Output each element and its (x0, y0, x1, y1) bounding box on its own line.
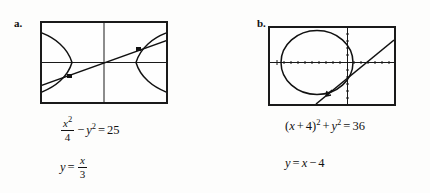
graph-b-intersection-arrow (326, 90, 332, 96)
problem-b-label: b. (257, 18, 266, 29)
problem-b-equation-2: y=x−4 (285, 157, 325, 170)
fraction-x-over-3: x 3 (78, 155, 88, 181)
fraction-numerator: x (78, 155, 88, 169)
graph-a-intersection-dot-left (67, 74, 72, 78)
problem-a-graph (40, 21, 168, 104)
right-hand-side: 25 (107, 123, 120, 137)
plus-operator: + (320, 119, 331, 133)
graph-a-svg (42, 23, 166, 102)
variable-x: x (289, 119, 295, 133)
problem-b: b. (215, 0, 430, 193)
problem-a-equation-1: x2 4 −y2=25 (60, 118, 120, 144)
plus-operator: + (295, 119, 306, 133)
problem-a: a. x2 4 −y2=25 (0, 0, 215, 193)
problem-b-graph (268, 26, 396, 106)
problem-b-equation-1: (x+4)2+y2=36 (285, 120, 365, 133)
fraction-denominator: 3 (78, 168, 88, 181)
equals-sign: = (291, 156, 302, 170)
minus-operator: − (75, 123, 86, 137)
problem-a-label: a. (14, 18, 22, 29)
fraction-denominator: 4 (61, 131, 74, 144)
variable-y: y (60, 160, 66, 174)
equals-sign: = (66, 160, 77, 174)
right-hand-side: 36 (352, 119, 365, 133)
worksheet-page: a. x2 4 −y2=25 (0, 0, 430, 193)
graph-a-intersection-dot-right (136, 47, 141, 51)
graph-b-svg (270, 28, 394, 104)
variable-y: y (285, 156, 291, 170)
fraction-x2-over-4: x2 4 (61, 118, 74, 144)
constant-4: 4 (318, 156, 324, 170)
equals-sign: = (96, 123, 107, 137)
minus-operator: − (307, 156, 318, 170)
equals-sign: = (341, 119, 352, 133)
problem-a-equation-2: y= x 3 (60, 155, 88, 181)
fraction-numerator: x2 (61, 118, 74, 132)
